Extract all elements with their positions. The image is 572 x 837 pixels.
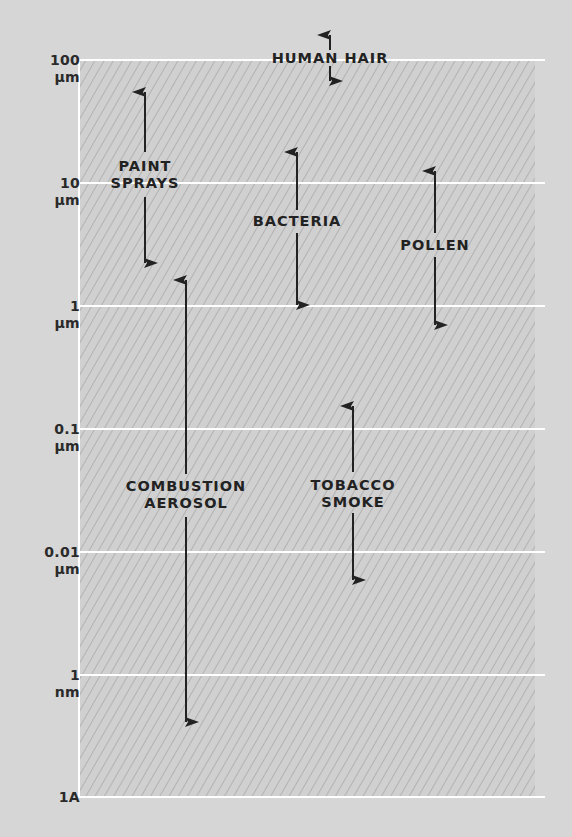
y-tick-0-01um: 0.01 µm xyxy=(44,544,80,578)
y-tick-1A: 1A xyxy=(59,789,80,806)
y-tick-1nm: 1 nm xyxy=(55,667,80,701)
label-paint-sprays: PAINT SPRAYS xyxy=(110,158,179,192)
y-tick-10um: 10 µm xyxy=(55,175,81,209)
label-human-hair: HUMAN HAIR xyxy=(272,50,389,67)
y-tick-1um: 1 µm xyxy=(55,298,81,332)
label-bacteria: BACTERIA xyxy=(253,213,342,230)
label-pollen: POLLEN xyxy=(400,237,469,254)
y-tick-100um: 100 µm xyxy=(50,52,80,86)
label-tobacco-smoke: TOBACCO SMOKE xyxy=(310,477,395,511)
label-combustion-aerosol: COMBUSTION AEROSOL xyxy=(126,478,246,512)
y-tick-0-1um: 0.1 µm xyxy=(54,421,80,455)
size-range-chart xyxy=(0,0,572,837)
